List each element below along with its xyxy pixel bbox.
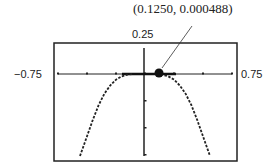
- xmax-label: 0.75: [241, 68, 262, 80]
- y-tick: [144, 100, 147, 102]
- point-annotation: (0.1250, 0.000488): [133, 1, 233, 17]
- x-tick: [115, 73, 117, 75]
- trace-point-marker: [155, 69, 164, 78]
- y-tick: [144, 127, 147, 129]
- viewing-window-frame: [54, 43, 237, 161]
- y-tick: [144, 154, 147, 156]
- x-tick: [231, 73, 233, 75]
- x-tick: [86, 73, 88, 75]
- xmin-label: −0.75: [14, 68, 42, 80]
- chart-canvas: [0, 0, 270, 168]
- ymax-label: 0.25: [132, 28, 153, 40]
- function-curve: [80, 74, 210, 156]
- x-tick: [202, 73, 204, 75]
- x-tick: [57, 73, 59, 75]
- annotation-leader-line: [162, 26, 192, 68]
